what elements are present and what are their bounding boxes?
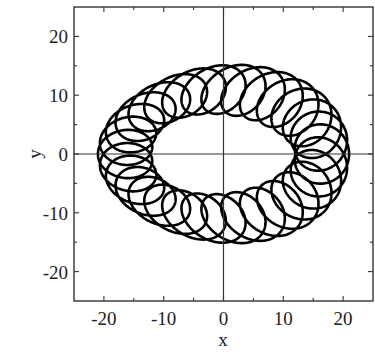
x-tick-label: -20 bbox=[91, 308, 116, 329]
x-tick-label: -10 bbox=[151, 308, 176, 329]
y-tick-label: -20 bbox=[43, 262, 68, 283]
zero-lines bbox=[74, 7, 373, 301]
y-tick-labels: -20 -10 0 10 20 bbox=[43, 26, 68, 282]
plot: -20 -10 0 10 20 -20 -10 0 10 20 x y bbox=[0, 0, 375, 352]
y-axis-label: y bbox=[24, 149, 45, 159]
x-tick-label: 10 bbox=[274, 308, 293, 329]
x-tick-labels: -20 -10 0 10 20 bbox=[91, 308, 352, 329]
y-tick-label: 10 bbox=[49, 85, 68, 106]
y-tick-label: -10 bbox=[43, 203, 68, 224]
x-tick-label: 20 bbox=[334, 308, 353, 329]
x-axis-label: x bbox=[218, 329, 228, 350]
y-tick-label: 20 bbox=[49, 26, 68, 47]
y-tick-label: 0 bbox=[59, 144, 69, 165]
x-tick-label: 0 bbox=[219, 308, 229, 329]
